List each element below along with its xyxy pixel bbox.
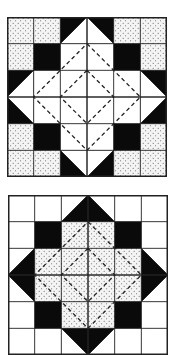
quilt-block-top: [7, 17, 167, 177]
quilt-block-bottom: [8, 195, 168, 355]
